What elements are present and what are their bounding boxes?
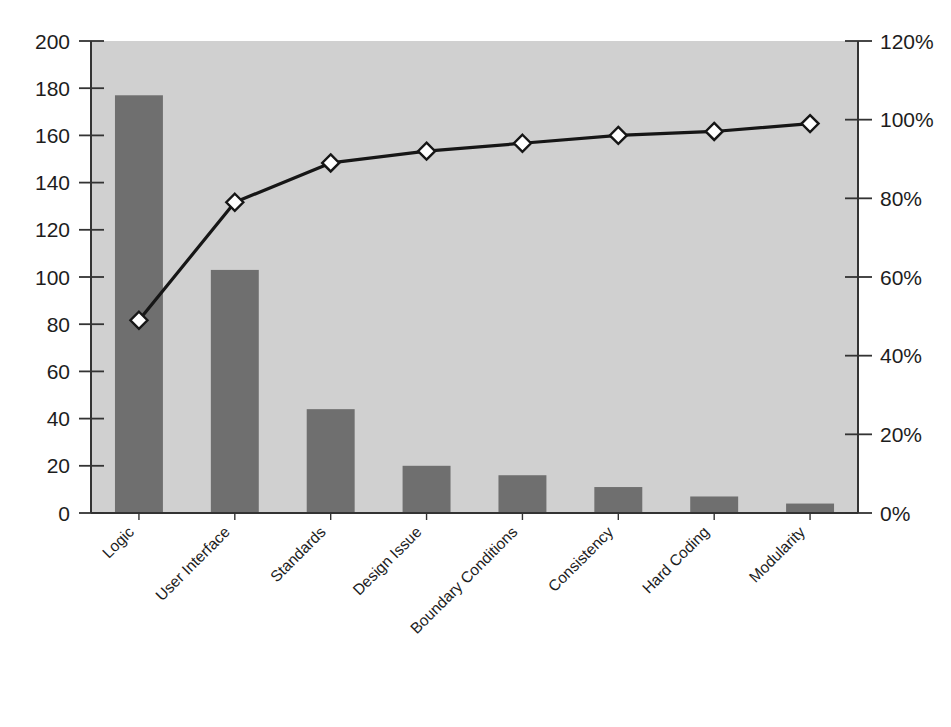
y-tick-label-right-4: 80% (880, 187, 922, 210)
y-tick-label-left-3: 60 (47, 360, 70, 383)
y-tick-label-right-3: 60% (880, 266, 922, 289)
y-tick-label-left-9: 180 (35, 77, 70, 100)
y-tick-label-right-5: 100% (880, 108, 934, 131)
y-tick-label-left-6: 120 (35, 218, 70, 241)
y-tick-label-left-8: 160 (35, 124, 70, 147)
x-category-label-4: Boundary Conditions (407, 523, 521, 637)
y-tick-label-left-4: 80 (47, 313, 70, 336)
x-category-label-0: Logic (99, 523, 137, 561)
chart-canvas: 0204060801001201401601802000%20%40%60%80… (0, 0, 951, 727)
x-category-label-6: Hard Coding (639, 523, 713, 597)
bar-7 (786, 504, 834, 513)
bar-6 (690, 496, 738, 513)
y-tick-label-right-0: 0% (880, 502, 910, 525)
bar-2 (307, 409, 355, 513)
bar-3 (403, 466, 451, 513)
y-tick-label-right-2: 40% (880, 344, 922, 367)
bar-4 (498, 475, 546, 513)
bar-1 (211, 270, 259, 513)
x-category-label-2: Standards (267, 523, 329, 585)
bar-0 (115, 95, 163, 513)
y-tick-label-right-6: 120% (880, 30, 934, 53)
x-category-label-3: Design Issue (349, 523, 424, 598)
bar-5 (594, 487, 642, 513)
y-tick-label-left-7: 140 (35, 171, 70, 194)
y-tick-label-left-2: 40 (47, 407, 70, 430)
y-tick-label-left-0: 0 (58, 502, 70, 525)
y-tick-label-left-1: 20 (47, 454, 70, 477)
plot-background (91, 41, 858, 513)
x-category-label-5: Consistency (545, 523, 617, 595)
pareto-chart: 0204060801001201401601802000%20%40%60%80… (0, 0, 951, 727)
x-category-label-1: User Interface (152, 523, 233, 604)
y-tick-label-left-10: 200 (35, 30, 70, 53)
y-tick-label-right-1: 20% (880, 423, 922, 446)
y-tick-label-left-5: 100 (35, 266, 70, 289)
x-category-label-7: Modularity (746, 523, 809, 586)
